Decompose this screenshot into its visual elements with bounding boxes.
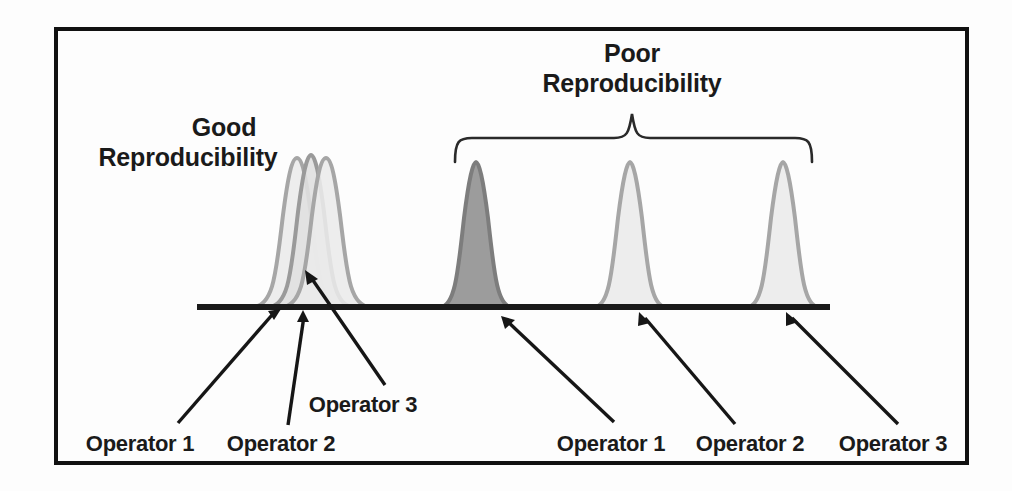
poor-reproducibility-heading-line1: Poor — [604, 39, 661, 67]
reproducibility-figure: Good Reproducibility Poor Reproducibilit… — [0, 0, 1012, 491]
label-poor-operator-3: Operator 3 — [839, 431, 947, 456]
good-reproducibility-heading-line1: Good — [192, 113, 256, 141]
label-good-operator-3: Operator 3 — [309, 392, 417, 417]
poor-reproducibility-heading-line2: Reproducibility — [543, 69, 722, 97]
reproducibility-diagram: Good Reproducibility Poor Reproducibilit… — [0, 0, 1012, 491]
label-poor-operator-1: Operator 1 — [557, 431, 665, 456]
figure-background — [0, 0, 1012, 491]
label-poor-operator-2: Operator 2 — [696, 431, 804, 456]
good-reproducibility-heading-line2: Reproducibility — [99, 143, 278, 171]
label-good-operator-2: Operator 2 — [227, 431, 335, 456]
label-good-operator-1: Operator 1 — [86, 431, 194, 456]
